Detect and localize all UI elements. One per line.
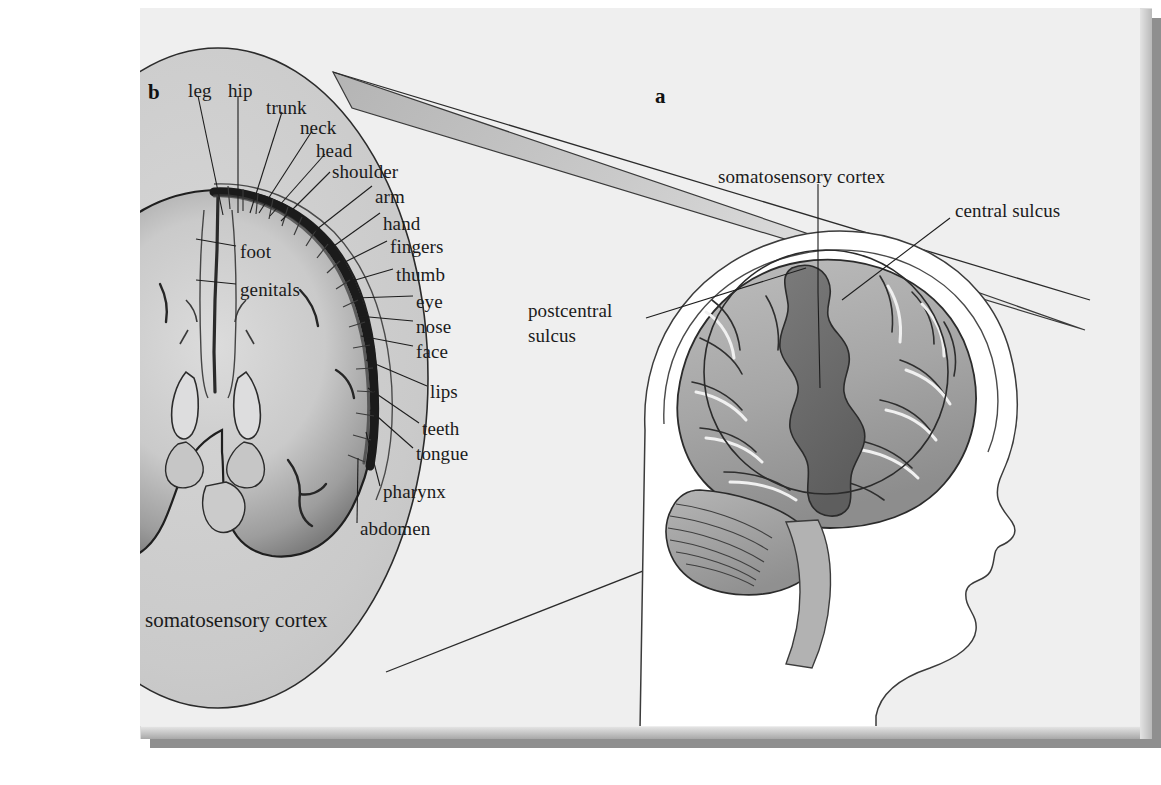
label-central-sulcus: central sulcus (955, 200, 1060, 221)
panel-b-letter: b (148, 80, 160, 105)
label-somatosensory-cortex-a: somatosensory cortex (718, 166, 885, 187)
label-postcentral-sulcus-line2: sulcus (528, 325, 576, 346)
label-lips: lips (430, 381, 458, 402)
label-pharynx: pharynx (383, 481, 446, 502)
label-genitals: genitals (240, 279, 300, 300)
label-arm: arm (375, 186, 405, 207)
label-head: head (316, 140, 352, 161)
figure-page: b a somatosensory cortex central sulcus … (0, 0, 1161, 785)
label-trunk: trunk (266, 97, 307, 118)
label-fingers: fingers (390, 236, 443, 257)
label-tongue: tongue (416, 443, 468, 464)
label-postcentral-sulcus-line1: postcentral (528, 300, 612, 321)
label-foot: foot (240, 241, 271, 262)
label-hand: hand (383, 213, 420, 234)
label-shoulder: shoulder (332, 161, 398, 182)
label-abdomen: abdomen (360, 518, 430, 539)
label-nose: nose (416, 316, 451, 337)
label-eye: eye (416, 291, 443, 312)
label-neck: neck (300, 117, 336, 138)
label-thumb: thumb (396, 264, 445, 285)
panel-b-caption: somatosensory cortex (145, 608, 328, 633)
panel-a-letter: a (655, 84, 666, 109)
label-leg: leg (188, 80, 212, 101)
label-teeth: teeth (422, 418, 459, 439)
label-hip: hip (228, 80, 253, 101)
label-face: face (416, 341, 448, 362)
